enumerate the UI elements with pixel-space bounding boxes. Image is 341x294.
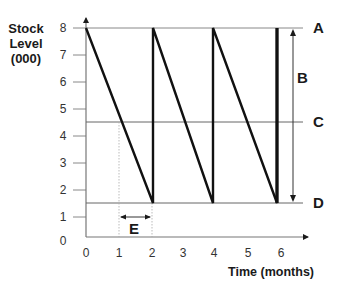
svg-text:(000): (000) bbox=[11, 51, 41, 66]
svg-text:1: 1 bbox=[116, 246, 123, 260]
svg-text:2: 2 bbox=[60, 183, 67, 197]
svg-text:5: 5 bbox=[245, 246, 252, 260]
label-a: A bbox=[313, 19, 324, 36]
svg-text:Level: Level bbox=[9, 36, 42, 51]
svg-text:5: 5 bbox=[60, 102, 67, 116]
svg-text:6: 6 bbox=[278, 246, 285, 260]
svg-text:3: 3 bbox=[60, 156, 67, 170]
stock-control-chart: Stock Level (000) 0 1 2 3 4 5 6 7 8 0 1 … bbox=[0, 0, 341, 294]
svg-text:Stock: Stock bbox=[8, 21, 44, 36]
x-axis-label: Time (months) bbox=[228, 265, 314, 279]
svg-text:4: 4 bbox=[211, 246, 218, 260]
svg-text:6: 6 bbox=[60, 75, 67, 89]
svg-text:0: 0 bbox=[60, 234, 67, 248]
svg-text:7: 7 bbox=[60, 48, 67, 62]
stock-level-series bbox=[86, 28, 277, 203]
svg-text:3: 3 bbox=[180, 246, 187, 260]
y-axis-tick-labels: 0 1 2 3 4 5 6 7 8 bbox=[60, 21, 67, 248]
label-d: D bbox=[313, 194, 324, 211]
svg-text:2: 2 bbox=[149, 246, 156, 260]
e-lead-time-arrow bbox=[120, 215, 151, 220]
y-axis-label: Stock Level (000) bbox=[8, 21, 44, 66]
svg-text:1: 1 bbox=[60, 210, 67, 224]
b-quantity-arrow bbox=[290, 29, 296, 202]
svg-text:8: 8 bbox=[60, 21, 67, 35]
svg-text:0: 0 bbox=[83, 246, 90, 260]
label-e: E bbox=[129, 220, 139, 237]
x-axis-tick-labels: 0 1 2 3 4 5 6 bbox=[83, 246, 285, 260]
label-c: C bbox=[313, 113, 324, 130]
label-b: B bbox=[297, 69, 308, 86]
y-axis-ticks bbox=[73, 28, 86, 217]
svg-text:4: 4 bbox=[60, 129, 67, 143]
